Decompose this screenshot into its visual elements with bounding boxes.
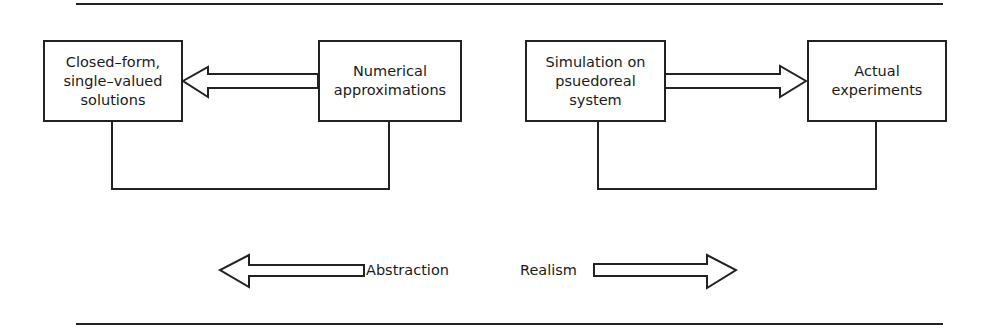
- realism-arrow-icon: [594, 255, 736, 288]
- box-label: Numerical approximations: [334, 62, 446, 100]
- box-actual-experiments: Actual experiments: [807, 40, 947, 122]
- connector-right-pair: [598, 121, 876, 189]
- connector-left-pair: [112, 121, 389, 189]
- realism-label: Realism: [520, 261, 577, 279]
- arrow-right-icon: [665, 66, 806, 97]
- box-closed-form-solutions: Closed–form, single–valued solutions: [43, 40, 183, 122]
- box-label: Simulation on psuedoreal system: [546, 53, 646, 110]
- abstraction-arrow-icon: [220, 255, 364, 287]
- box-label: Actual experiments: [832, 62, 923, 100]
- box-simulation-pseudoreal: Simulation on psuedoreal system: [525, 40, 666, 122]
- abstraction-label: Abstraction: [366, 261, 449, 279]
- box-numerical-approximations: Numerical approximations: [318, 40, 462, 122]
- box-label: Closed–form, single–valued solutions: [64, 53, 163, 110]
- arrow-left-icon: [183, 67, 318, 97]
